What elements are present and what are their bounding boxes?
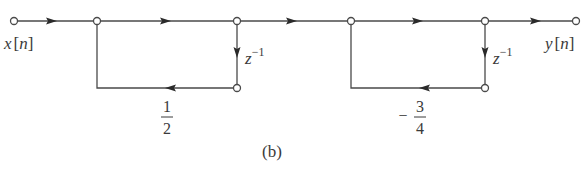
svg-text:3: 3 [416,98,424,115]
svg-text:2: 2 [163,120,171,137]
branch-feedback-1 [97,24,234,88]
gain-label-2: − 3 4 [398,98,426,137]
node-n2 [234,18,241,25]
node-n3 [348,18,355,25]
figure-caption: (b) [262,142,282,161]
input-label: x[n] [3,34,33,53]
output-label: y[n] [543,34,574,53]
node-delay-1 [234,85,241,92]
node-output [573,18,580,25]
node-n4 [482,18,489,25]
node-input [11,18,18,25]
gain-label-1: 1 2 [161,98,173,137]
signal-flow-graph: x[n] y[n] z−1 z−1 1 2 − 3 4 (b) [0,0,588,170]
node-n1 [94,18,101,25]
svg-text:1: 1 [163,98,171,115]
svg-text:−: − [398,107,407,124]
branch-feedback-2 [351,24,482,88]
delay-label-1: z−1 [244,45,264,68]
svg-text:4: 4 [416,120,424,137]
node-delay-2 [482,85,489,92]
delay-label-2: z−1 [492,45,512,68]
